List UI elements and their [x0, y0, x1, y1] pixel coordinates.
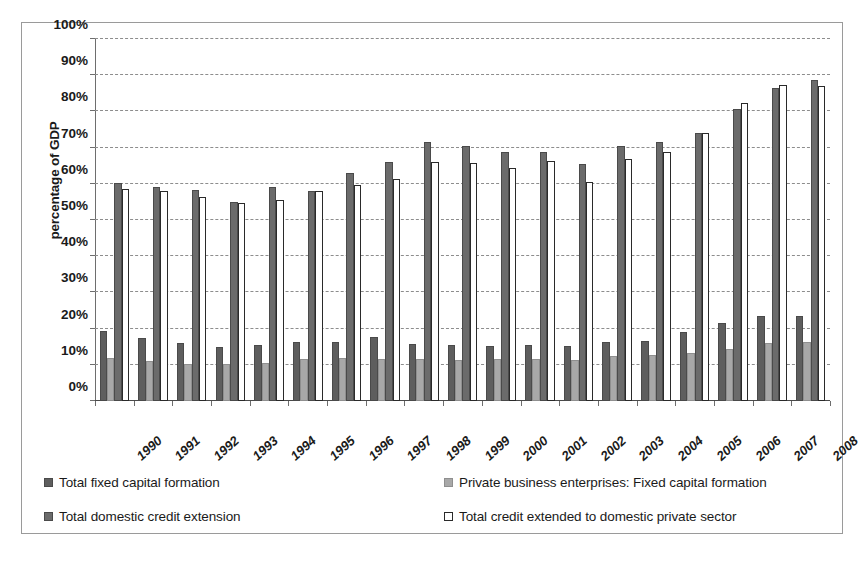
bar — [586, 182, 593, 401]
legend-item[interactable]: Total domestic credit extension — [44, 509, 444, 524]
x-tick-mark — [211, 401, 212, 406]
bar — [409, 344, 416, 401]
x-tick-mark — [482, 401, 483, 406]
bar — [571, 360, 578, 401]
bar-group — [675, 39, 714, 401]
bar — [332, 342, 339, 401]
bar-group — [211, 39, 250, 401]
bar — [184, 364, 191, 401]
bar — [525, 345, 532, 401]
bar-group — [404, 39, 443, 401]
legend-item[interactable]: Total credit extended to domestic privat… — [444, 509, 824, 524]
bar — [741, 103, 748, 401]
bar — [238, 203, 245, 401]
x-tick-mark — [521, 401, 522, 406]
bar — [779, 85, 786, 401]
y-tick-label: 100% — [53, 17, 88, 32]
bar-group — [327, 39, 366, 401]
x-axis-label: 1997 — [404, 433, 436, 463]
bar — [796, 316, 803, 401]
legend-label: Total credit extended to domestic privat… — [459, 509, 736, 524]
x-tick-mark — [172, 401, 173, 406]
x-axis-label: 2006 — [752, 433, 784, 463]
y-tick-label: 90% — [61, 53, 88, 68]
x-tick-mark — [753, 401, 754, 406]
x-tick-mark — [95, 401, 96, 406]
bar — [803, 342, 810, 401]
bar — [641, 341, 648, 401]
bar — [424, 142, 431, 401]
y-tick-label: 20% — [61, 306, 88, 321]
x-tick-mark — [443, 401, 444, 406]
x-axis-label: 1993 — [249, 433, 281, 463]
bar — [656, 142, 663, 401]
bar-group — [791, 39, 830, 401]
x-tick-mark — [404, 401, 405, 406]
x-axis-label: 2000 — [520, 433, 552, 463]
y-axis-title: percentage of GDP — [47, 61, 62, 301]
x-axis-label: 1996 — [365, 433, 397, 463]
bar — [308, 191, 315, 401]
bar — [687, 353, 694, 401]
bar-group — [134, 39, 173, 401]
x-axis-label: 2002 — [597, 433, 629, 463]
bar — [579, 164, 586, 401]
x-axis-label: 1998 — [442, 433, 474, 463]
bar — [378, 359, 385, 401]
bar — [532, 359, 539, 401]
bar — [455, 360, 462, 401]
y-tick-label: 10% — [61, 342, 88, 357]
bar — [649, 355, 656, 401]
y-tick-label: 30% — [61, 270, 88, 285]
x-tick-mark — [714, 401, 715, 406]
y-tick-label: 60% — [61, 161, 88, 176]
bar — [765, 343, 772, 401]
bar — [177, 343, 184, 401]
bar — [199, 197, 206, 401]
bar — [346, 173, 353, 401]
bar — [663, 152, 670, 401]
x-tick-mark — [134, 401, 135, 406]
x-axis-label: 1991 — [172, 433, 204, 463]
bar — [146, 361, 153, 401]
bar — [114, 183, 121, 401]
legend-item[interactable]: Private business enterprises: Fixed capi… — [444, 475, 824, 490]
bar — [564, 346, 571, 401]
bar — [122, 189, 129, 401]
x-tick-mark — [675, 401, 676, 406]
bar — [811, 80, 818, 401]
bar — [757, 316, 764, 401]
bar — [300, 359, 307, 401]
x-axis-label: 2004 — [675, 433, 707, 463]
legend-item[interactable]: Total fixed capital formation — [44, 475, 444, 490]
legend-label: Total fixed capital formation — [59, 475, 220, 490]
chart-legend: Total fixed capital formationPrivate bus… — [44, 475, 824, 524]
bar — [494, 359, 501, 401]
bar — [160, 191, 167, 401]
bar — [254, 345, 261, 401]
bar-group — [521, 39, 560, 401]
bar — [107, 358, 114, 401]
y-tick-label: 70% — [61, 125, 88, 140]
plot-area: 0%10%20%30%40%50%60%70%80%90%100% 199019… — [95, 39, 830, 401]
bar — [354, 185, 361, 401]
bar — [540, 152, 547, 401]
legend-swatch — [44, 478, 53, 487]
bar-group — [443, 39, 482, 401]
bar — [385, 162, 392, 401]
x-tick-mark — [559, 401, 560, 406]
bar — [192, 190, 199, 401]
y-tick-label: 0% — [68, 379, 88, 394]
x-axis-label: 1992 — [210, 433, 242, 463]
bar — [370, 337, 377, 401]
y-tick-label: 80% — [61, 89, 88, 104]
y-tick-label: 40% — [61, 234, 88, 249]
bar — [223, 364, 230, 401]
bar — [393, 179, 400, 401]
y-tick-label: 50% — [61, 198, 88, 213]
bar — [486, 346, 493, 401]
x-tick-mark — [366, 401, 367, 406]
legend-swatch — [444, 478, 453, 487]
x-tick-mark — [288, 401, 289, 406]
bar — [339, 358, 346, 401]
